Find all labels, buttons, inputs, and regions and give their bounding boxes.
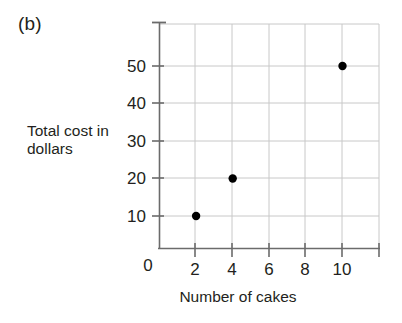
x-tick-label-6: 6 xyxy=(264,260,273,279)
x-axis-ticks xyxy=(195,243,379,257)
x-tick-label-0: 0 xyxy=(143,256,152,275)
x-tick-label-10: 10 xyxy=(333,260,352,279)
x-tick-label-8: 8 xyxy=(300,260,309,279)
x-axis-tick-labels: 0 2 4 6 8 10 xyxy=(143,256,351,279)
y-tick-label-40: 40 xyxy=(127,94,146,113)
x-tick-label-2: 2 xyxy=(190,260,199,279)
x-axis-title: Number of cakes xyxy=(0,288,402,306)
y-tick-label-20: 20 xyxy=(127,169,146,188)
figure-panel: (b) Total cost in dollars xyxy=(0,0,402,323)
y-tick-label-10: 10 xyxy=(127,207,146,226)
x-axis-title-text: Number of cakes xyxy=(105,288,296,305)
scatter-plot: 50 40 30 20 10 0 2 4 6 8 10 xyxy=(0,0,402,323)
data-point xyxy=(192,212,200,220)
data-point xyxy=(338,62,346,70)
data-point xyxy=(229,174,237,182)
y-axis-tick-labels: 50 40 30 20 10 xyxy=(127,57,146,226)
y-tick-label-50: 50 xyxy=(127,57,146,76)
y-tick-label-30: 30 xyxy=(127,132,146,151)
x-tick-label-4: 4 xyxy=(227,260,236,279)
grid-lines xyxy=(159,24,379,248)
